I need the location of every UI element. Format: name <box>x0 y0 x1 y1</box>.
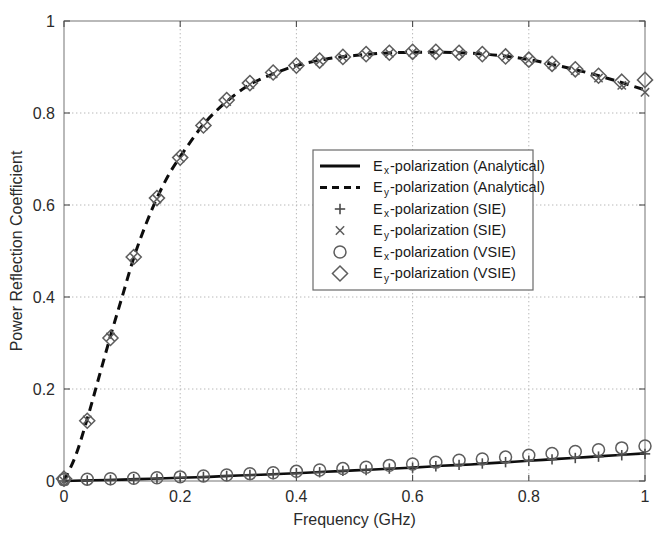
reflection-coefficient-chart: 00.20.40.60.8100.20.40.60.81 Frequency (… <box>0 0 661 552</box>
x-axis-title: Frequency (GHz) <box>293 511 416 528</box>
y-axis-title: Power Reflection Coefficient <box>8 150 25 351</box>
legend-symbol-base: E <box>373 244 383 260</box>
y-tick-label: 0 <box>46 473 55 490</box>
legend-symbol-subscript: x <box>384 208 389 219</box>
legend-symbol-subscript: y <box>384 187 389 198</box>
legend-symbol-subscript: x <box>384 165 389 176</box>
legend-symbol-subscript: y <box>384 273 389 284</box>
legend-entry-label: -polarization (VSIE) <box>390 265 516 281</box>
x-tick-label: 0.6 <box>401 488 423 505</box>
legend-symbol-base: E <box>373 222 383 238</box>
y-tick-label: 1 <box>46 13 55 30</box>
legend-entry-label: -polarization (Analytical) <box>390 179 545 195</box>
y-tick-label: 0.2 <box>33 381 55 398</box>
legend-entry-label: -polarization (SIE) <box>390 222 506 238</box>
legend-symbol-base: E <box>373 179 383 195</box>
x-tick-label: 0 <box>60 488 69 505</box>
legend-symbol-base: E <box>373 158 383 174</box>
x-tick-label: 0.8 <box>518 488 540 505</box>
x-tick-label: 0.4 <box>285 488 307 505</box>
legend-symbol-base: E <box>373 265 383 281</box>
chart-legend: Ex-polarization (Analytical)Ey-polarizat… <box>313 150 545 290</box>
y-tick-label: 0.4 <box>33 289 55 306</box>
legend-symbol-base: E <box>373 201 383 217</box>
legend-symbol-subscript: x <box>384 251 389 262</box>
x-tick-label: 1 <box>641 488 650 505</box>
legend-entry-label: -polarization (SIE) <box>390 201 506 217</box>
legend-entry-label: -polarization (Analytical) <box>390 158 545 174</box>
y-tick-label: 0.8 <box>33 105 55 122</box>
x-tick-label: 0.2 <box>169 488 191 505</box>
legend-symbol-subscript: y <box>384 230 389 241</box>
y-tick-label: 0.6 <box>33 197 55 214</box>
legend-entry-label: -polarization (VSIE) <box>390 244 516 260</box>
chart-canvas: 00.20.40.60.8100.20.40.60.81 Frequency (… <box>0 0 661 552</box>
